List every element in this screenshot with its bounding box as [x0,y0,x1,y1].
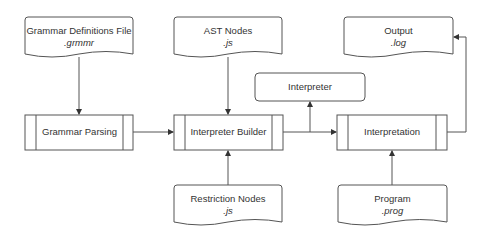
node-interpreter-builder: Interpreter Builder [185,126,272,138]
node-ext: .prog [338,205,447,217]
node-ast-nodes: AST Nodes .js [174,25,282,49]
node-ext: .grmmr [25,37,133,49]
node-label: Interpreter [255,81,365,93]
node-ext: .js [174,205,282,217]
node-interpretation: Interpretation [348,126,436,138]
node-interpreter: Interpreter [255,81,365,93]
node-label: Grammar Parsing [36,126,123,138]
node-ext: .js [174,37,282,49]
node-label: Program [338,193,447,205]
node-label: Restriction Nodes [174,193,282,205]
node-label: Output [344,25,453,37]
node-restriction-nodes: Restriction Nodes .js [174,193,282,217]
node-grammar-parsing: Grammar Parsing [36,126,123,138]
node-program: Program .prog [338,193,447,217]
node-label: Interpreter Builder [185,126,272,138]
node-ext: .log [344,37,453,49]
node-output: Output .log [344,25,453,49]
node-label: Grammar Definitions File [25,25,133,37]
node-label: Interpretation [348,126,436,138]
node-grammar-def-file: Grammar Definitions File .grmmr [25,25,133,49]
node-label: AST Nodes [174,25,282,37]
